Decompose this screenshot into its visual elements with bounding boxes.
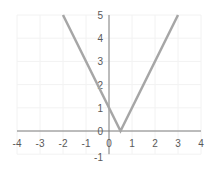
x-tick-label: 1 [129, 138, 135, 149]
x-tick-label: 0 [106, 138, 112, 149]
y-tick-label: 0 [97, 126, 103, 137]
x-tick-label: -1 [82, 138, 91, 149]
y-tick-label: 1 [97, 103, 103, 114]
y-tick-label: 3 [97, 56, 103, 67]
series-line [63, 15, 178, 131]
x-tick-label: 2 [152, 138, 158, 149]
x-tick-label: -4 [13, 138, 22, 149]
y-tick-label: 5 [97, 10, 103, 21]
x-tick-labels: -4-3-2-101234 [13, 138, 205, 149]
y-tick-label: -1 [94, 152, 103, 163]
chart-plot: -4-3-2-101234 -1012345 [0, 0, 214, 169]
x-tick-label: -3 [36, 138, 45, 149]
y-tick-label: 4 [97, 33, 103, 44]
x-tick-label: 3 [175, 138, 181, 149]
data-series [63, 15, 178, 131]
x-tick-label: 4 [198, 138, 204, 149]
x-tick-label: -2 [59, 138, 68, 149]
